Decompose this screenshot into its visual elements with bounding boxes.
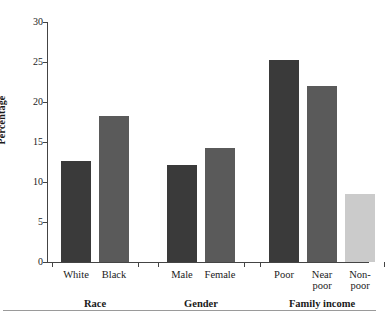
x-tick-mark bbox=[260, 262, 261, 267]
x-tick-mark bbox=[52, 262, 53, 267]
y-tick-label: 20 bbox=[7, 97, 43, 107]
x-axis-line bbox=[47, 262, 369, 263]
x-tick-mark bbox=[244, 262, 245, 267]
bottom-rule bbox=[3, 310, 376, 311]
x-tick-mark bbox=[158, 262, 159, 267]
y-tick-label: 15 bbox=[7, 137, 43, 147]
bar bbox=[307, 86, 337, 262]
bar bbox=[167, 165, 197, 262]
y-tick-label: 5 bbox=[7, 217, 43, 227]
y-tick-mark bbox=[43, 262, 47, 263]
y-tick-label: 30 bbox=[7, 17, 43, 27]
group-label: Family income bbox=[239, 298, 389, 309]
bar bbox=[61, 161, 91, 262]
plot-area bbox=[47, 22, 369, 262]
x-tick-mark bbox=[138, 262, 139, 267]
bar bbox=[99, 116, 129, 262]
y-tick-label: 0 bbox=[7, 257, 43, 267]
category-label: Female bbox=[197, 269, 243, 280]
x-tick-mark bbox=[384, 262, 385, 267]
bar bbox=[345, 194, 375, 262]
y-tick-label: 10 bbox=[7, 177, 43, 187]
category-label: Black bbox=[91, 269, 137, 280]
y-tick-label: 25 bbox=[7, 57, 43, 67]
bar bbox=[205, 148, 235, 262]
y-axis-title: Percentage bbox=[0, 60, 7, 180]
category-label: Non-poor bbox=[337, 269, 383, 291]
bar bbox=[269, 60, 299, 262]
